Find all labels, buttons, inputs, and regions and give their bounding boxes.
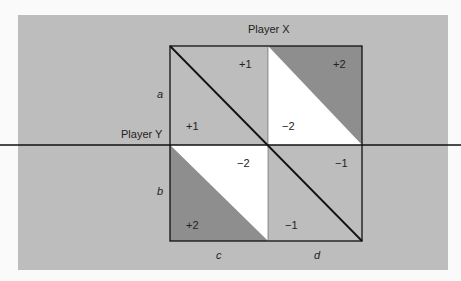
payoff-label: −2	[282, 120, 295, 132]
player-x-label: Player X	[248, 23, 290, 35]
payoff-diagram	[0, 0, 461, 281]
payoff-label: +1	[239, 58, 252, 70]
payoff-label: −1	[285, 219, 298, 231]
payoff-label: −2	[237, 157, 250, 169]
col-label-d: d	[314, 249, 320, 261]
row-label-a: a	[157, 88, 163, 100]
payoff-label: +1	[186, 120, 199, 132]
payoff-label: −1	[335, 157, 348, 169]
col-label-c: c	[216, 249, 222, 261]
player-y-label: Player Y	[121, 128, 162, 140]
payoff-label: +2	[333, 58, 346, 70]
row-label-b: b	[157, 185, 163, 197]
payoff-label: +2	[186, 219, 199, 231]
